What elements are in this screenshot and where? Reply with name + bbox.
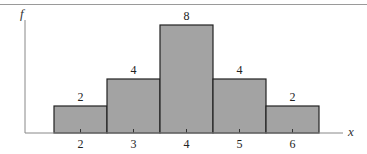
bar-value-label: 2 bbox=[78, 90, 84, 104]
histogram-bar bbox=[213, 79, 266, 133]
histogram-bar bbox=[107, 79, 160, 133]
histogram-bar bbox=[54, 106, 107, 133]
x-tick-label: 6 bbox=[290, 137, 296, 151]
histogram-bar bbox=[160, 25, 213, 133]
histogram-chart: f2243844526x bbox=[0, 0, 367, 154]
bar-value-label: 2 bbox=[290, 90, 296, 104]
x-tick-label: 2 bbox=[78, 137, 84, 151]
bar-value-label: 4 bbox=[131, 63, 137, 77]
y-axis-label: f bbox=[20, 6, 26, 21]
x-tick-label: 3 bbox=[131, 137, 137, 151]
x-tick-label: 4 bbox=[184, 137, 190, 151]
x-axis-label: x bbox=[347, 124, 354, 139]
x-tick-label: 5 bbox=[237, 137, 243, 151]
bar-value-label: 4 bbox=[237, 63, 243, 77]
histogram-bar bbox=[266, 106, 319, 133]
bar-value-label: 8 bbox=[184, 9, 190, 23]
